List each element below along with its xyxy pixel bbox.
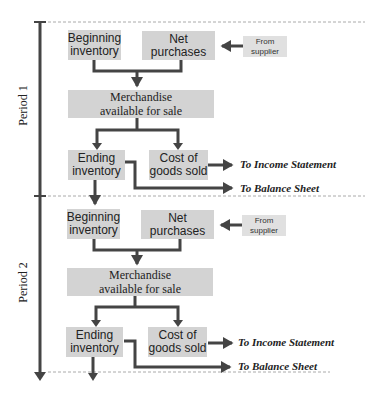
net-purchases-label: Net purchases (150, 212, 205, 238)
to-balance-sheet: To Balance Sheet (240, 182, 319, 194)
cogs-box: Cost of goods sold (149, 150, 208, 180)
ending-inventory-label: Ending inventory (72, 152, 121, 178)
merchandise-available-box: Merchandise available for sale (67, 268, 213, 296)
beginning-inventory-label: Beginning inventory (68, 32, 121, 58)
ending-inventory-box: Ending inventory (68, 150, 125, 180)
net-purchases-box: Net purchases (141, 210, 214, 239)
beginning-inventory-box: Beginning inventory (68, 30, 121, 60)
to-balance-sheet: To Balance Sheet (238, 360, 317, 372)
merchandise-available-label: Merchandise available for sale (100, 90, 182, 118)
merchandise-available-label: Merchandise available for sale (99, 268, 181, 296)
beginning-inventory-box: Beginning inventory (67, 209, 120, 239)
cogs-label: Cost of goods sold (149, 152, 207, 178)
from-supplier-label: From supplier (250, 216, 278, 236)
cogs-label: Cost of goods sold (148, 329, 206, 355)
to-income-statement: To Income Statement (238, 336, 334, 348)
to-income-statement: To Income Statement (240, 158, 336, 170)
cogs-box: Cost of goods sold (148, 327, 207, 357)
beginning-inventory-label: Beginning inventory (67, 211, 120, 237)
ending-inventory-label: Ending inventory (70, 329, 119, 355)
merchandise-available-box: Merchandise available for sale (68, 90, 214, 118)
net-purchases-label: Net purchases (151, 33, 206, 59)
from-supplier-box: From supplier (243, 36, 287, 57)
period-1-label: Period 1 (16, 81, 31, 131)
ending-inventory-box: Ending inventory (66, 327, 123, 357)
net-purchases-box: Net purchases (142, 31, 215, 60)
from-supplier-label: From supplier (251, 37, 279, 57)
from-supplier-box: From supplier (242, 215, 286, 236)
period-2-label: Period 2 (16, 258, 31, 308)
